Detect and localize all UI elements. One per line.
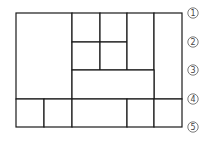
panel-right-tall	[154, 13, 182, 99]
panel-mid-b	[100, 42, 127, 70]
panel-tall-col-5	[127, 13, 154, 70]
row-marker-1: 1	[188, 8, 198, 18]
row-marker-5: 5	[188, 122, 198, 132]
marker-number: 4	[190, 95, 195, 104]
panel-wide-row-3	[72, 70, 154, 99]
marker-number: 3	[190, 66, 195, 75]
row-marker-2: 2	[188, 37, 198, 47]
panel-top-mid-a	[72, 13, 100, 42]
row-marker-3: 3	[188, 65, 198, 75]
panel-top-mid-b	[100, 13, 127, 42]
panel-grid-diagram: 12345	[0, 0, 210, 141]
panel-bottom-3	[72, 99, 127, 127]
row-marker-4: 4	[188, 94, 198, 104]
panel-left-large	[16, 13, 72, 99]
marker-number: 5	[190, 123, 195, 132]
panel-bottom-2	[44, 99, 72, 127]
panel-mid-a	[72, 42, 100, 70]
panel-bottom-5	[154, 99, 182, 127]
marker-number: 1	[190, 9, 195, 18]
panel-bottom-1	[16, 99, 44, 127]
panel-bottom-4	[127, 99, 154, 127]
marker-number: 2	[190, 38, 195, 47]
